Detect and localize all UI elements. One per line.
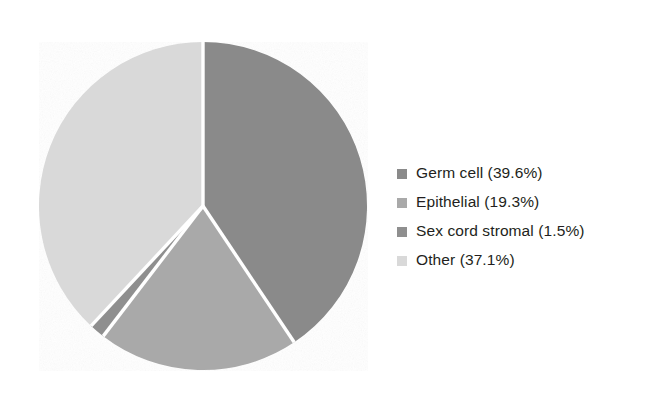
legend-item-epithelial[interactable]: Epithelial (19.3%)	[397, 187, 637, 216]
legend-item-sex-cord-stromal[interactable]: Sex cord stromal (1.5%)	[397, 216, 637, 245]
pie-chart-svg	[38, 26, 368, 386]
pie-chart-figure: Germ cell (39.6%) Epithelial (19.3%) Sex…	[0, 0, 646, 399]
legend-label-sex-cord-stromal: Sex cord stromal (1.5%)	[416, 223, 585, 239]
legend-item-other[interactable]: Other (37.1%)	[397, 245, 637, 274]
legend-swatch-germ-cell-icon	[397, 169, 407, 179]
legend-swatch-epithelial-icon	[397, 198, 407, 208]
chart-legend: Germ cell (39.6%) Epithelial (19.3%) Sex…	[397, 158, 637, 274]
pie-chart-plot-area	[38, 26, 368, 386]
legend-label-germ-cell: Germ cell (39.6%)	[416, 165, 543, 181]
legend-swatch-sex-cord-stromal-icon	[397, 227, 407, 237]
legend-label-epithelial: Epithelial (19.3%)	[416, 194, 539, 210]
legend-item-germ-cell[interactable]: Germ cell (39.6%)	[397, 158, 637, 187]
legend-label-other: Other (37.1%)	[416, 252, 515, 268]
legend-swatch-other-icon	[397, 256, 407, 266]
